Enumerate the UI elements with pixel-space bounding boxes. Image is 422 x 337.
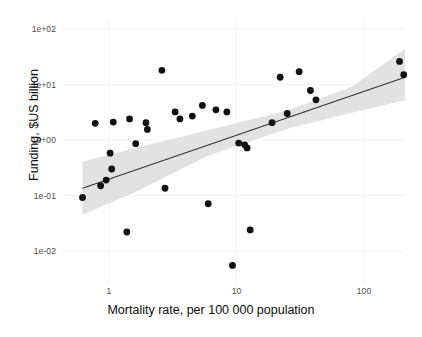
data-point [103,177,110,184]
data-point [123,229,130,236]
data-point [269,119,276,126]
data-point [199,102,206,109]
data-point [162,185,169,192]
data-point [296,68,303,75]
data-point [110,119,117,126]
data-point [284,110,291,117]
x-tick-label: 100 [344,286,384,296]
y-tick-label: 1e+02 [22,24,56,34]
data-point [108,166,115,173]
scatter-plot-figure: 1e+021e+011e+001e-011e-02 110100 Funding… [0,0,422,337]
confidence-band [83,49,406,215]
data-point [247,226,254,233]
data-point [97,182,104,189]
data-point [223,109,230,116]
confidence-band-area [83,49,406,215]
data-point [277,74,284,81]
data-point [307,87,314,94]
data-point [143,119,150,126]
data-point [79,194,86,201]
data-point [205,200,212,207]
data-point [159,67,166,74]
x-axis-title: Mortality rate, per 100 000 population [0,303,422,317]
data-point [313,96,320,103]
data-point [144,126,151,133]
data-point [396,58,403,65]
data-point [132,140,139,147]
x-tick-label: 10 [217,286,257,296]
data-point [177,115,184,122]
data-point [213,106,220,113]
fit-line [83,77,406,188]
x-tick-label: 1 [89,286,129,296]
data-point [172,109,179,116]
data-point [400,71,407,78]
data-point [126,115,133,122]
y-axis-title: Funding, $US billion [27,45,41,205]
data-point [235,140,242,147]
y-tick-label: 1e-02 [22,246,56,256]
gridlines-group [62,18,405,283]
data-point [92,120,99,127]
data-point [189,113,196,120]
regression-line [83,77,406,188]
data-point [229,262,236,269]
data-point [107,150,114,157]
data-point [244,145,251,152]
